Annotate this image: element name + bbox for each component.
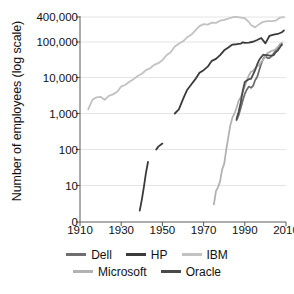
y-tick-label: 1,000	[20, 108, 78, 120]
y-tick-label: 100,000	[20, 36, 78, 48]
legend-item-ibm[interactable]: IBM	[182, 248, 228, 262]
legend-swatch-icon	[126, 253, 146, 256]
legend-swatch-icon	[182, 253, 202, 256]
legend-swatch-icon	[161, 270, 181, 273]
legend-label: HP	[151, 248, 168, 262]
legend-label: Microsoft	[98, 265, 147, 279]
y-tick-label: 400,000	[20, 11, 78, 23]
x-tick-label: 1970	[191, 224, 217, 236]
legend-row: MicrosoftOracle	[0, 263, 294, 280]
x-tick-labels: 191019301950197019902010	[0, 224, 294, 242]
y-tick-label: 100	[20, 144, 78, 156]
legend-label: IBM	[207, 248, 228, 262]
y-tick-labels: 0101001,00010,000100,000400,000	[20, 0, 78, 240]
x-tick-label: 1930	[108, 224, 134, 236]
legend-item-dell[interactable]: Dell	[66, 248, 112, 262]
x-tick-label: 1910	[67, 224, 93, 236]
legend: DellHPIBMMicrosoftOracle	[0, 246, 294, 280]
legend-swatch-icon	[73, 270, 93, 273]
legend-label: Dell	[91, 248, 112, 262]
y-tick-label: 10	[20, 180, 78, 192]
employees-log-chart: Number of employees (log scale) 0101001,…	[0, 0, 294, 294]
y-tick-label: 10,000	[20, 72, 78, 84]
x-tick-label: 1950	[150, 224, 176, 236]
legend-swatch-icon	[66, 253, 86, 256]
legend-item-oracle[interactable]: Oracle	[161, 265, 221, 279]
plot-area: 0101001,00010,000100,000400,000	[0, 0, 294, 240]
legend-label: Oracle	[186, 265, 221, 279]
x-tick-label: 2010	[273, 224, 294, 236]
x-tick-label: 1990	[232, 224, 258, 236]
legend-row: DellHPIBM	[0, 246, 294, 263]
legend-item-microsoft[interactable]: Microsoft	[73, 265, 147, 279]
legend-item-hp[interactable]: HP	[126, 248, 168, 262]
